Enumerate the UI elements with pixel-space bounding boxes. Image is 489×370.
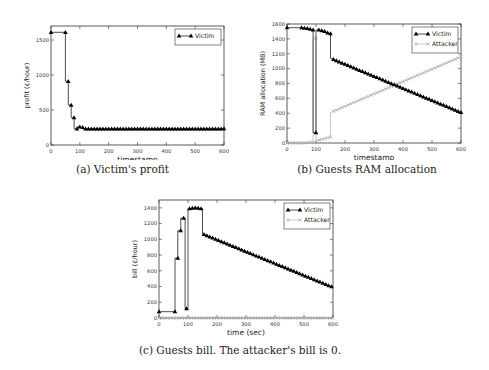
y-tick-label: 0 bbox=[154, 315, 157, 321]
y-tick-label: 1000 bbox=[144, 236, 157, 242]
x-tick-label: 200 bbox=[212, 321, 222, 327]
y-tick-label: 800 bbox=[275, 80, 285, 86]
x-tick-label: 100 bbox=[183, 321, 193, 327]
y-tick-label: 1400 bbox=[144, 205, 157, 211]
legend: Victim bbox=[175, 29, 221, 45]
x-tick-label: 0 bbox=[157, 321, 160, 327]
x-tick-label: 500 bbox=[427, 146, 437, 152]
y-tick-label: 1000 bbox=[272, 65, 285, 71]
x-tick-label: 200 bbox=[340, 146, 350, 152]
y-tick-label: 400 bbox=[275, 110, 285, 116]
x-tick-label: 500 bbox=[190, 148, 200, 154]
caption-b: (b) Guests RAM allocation bbox=[245, 163, 489, 175]
y-tick-label: 1600 bbox=[272, 21, 285, 27]
legend-entry-label: Attacker bbox=[432, 40, 458, 47]
x-tick-label: 300 bbox=[241, 321, 251, 327]
chart-b-plot: 0100200300400500600020040060080010001200… bbox=[245, 0, 489, 160]
legend-entry-label: Victim bbox=[195, 32, 214, 39]
x-tick-label: 400 bbox=[398, 146, 408, 152]
y-tick-label: 600 bbox=[147, 268, 157, 274]
y-tick-label: 1000 bbox=[36, 72, 49, 78]
y-axis-label: bill (¢/hour) bbox=[131, 240, 139, 278]
x-tick-label: 100 bbox=[75, 148, 85, 154]
y-tick-label: 0 bbox=[282, 140, 285, 146]
y-tick-label: 200 bbox=[275, 125, 285, 131]
chart-a: 0100200300400500600050010001500timestamp… bbox=[0, 0, 245, 180]
chart-b: 0100200300400500600020040060080010001200… bbox=[245, 0, 489, 180]
y-tick-label: 500 bbox=[39, 107, 49, 113]
y-tick-label: 0 bbox=[46, 142, 49, 148]
x-tick-label: 600 bbox=[456, 146, 466, 152]
caption-a: (a) Victim's profit bbox=[0, 163, 245, 175]
chart-c-plot: 0100200300400500600020040060080010001200… bbox=[110, 180, 370, 340]
legend-entry-label: Victim bbox=[432, 30, 451, 37]
x-tick-label: 600 bbox=[219, 148, 229, 154]
legend: VictimAttacker bbox=[412, 27, 458, 53]
legend: VictimAttacker bbox=[284, 203, 330, 229]
x-tick-label: 400 bbox=[161, 148, 171, 154]
legend-entry-label: Victim bbox=[304, 206, 323, 213]
x-tick-label: 400 bbox=[270, 321, 280, 327]
x-tick-label: 100 bbox=[311, 146, 321, 152]
x-tick-label: 500 bbox=[299, 321, 309, 327]
y-tick-label: 1200 bbox=[144, 220, 157, 226]
y-tick-label: 800 bbox=[147, 252, 157, 258]
x-tick-label: 300 bbox=[369, 146, 379, 152]
y-axis-label: RAM allocation (MB) bbox=[259, 51, 267, 116]
x-tick-label: 600 bbox=[328, 321, 338, 327]
x-axis-label: timestamp bbox=[354, 153, 395, 160]
y-tick-label: 1500 bbox=[36, 37, 49, 43]
x-tick-label: 0 bbox=[285, 146, 288, 152]
y-tick-label: 400 bbox=[147, 283, 157, 289]
x-axis-label: timestamp bbox=[117, 155, 158, 160]
legend-entry-label: Attacker bbox=[304, 216, 330, 223]
y-axis-label: profit (¢/hour) bbox=[23, 63, 31, 109]
y-tick-label: 200 bbox=[147, 299, 157, 305]
x-axis-label: time (sec) bbox=[227, 328, 265, 337]
x-tick-label: 0 bbox=[49, 148, 52, 154]
x-tick-label: 300 bbox=[133, 148, 143, 154]
y-tick-label: 1200 bbox=[272, 51, 285, 57]
y-tick-label: 1400 bbox=[272, 36, 285, 42]
x-tick-label: 200 bbox=[104, 148, 114, 154]
chart-c: 0100200300400500600020040060080010001200… bbox=[110, 180, 370, 370]
y-tick-label: 600 bbox=[275, 95, 285, 101]
caption-c: (c) Guests bill. The attacker's bill is … bbox=[110, 344, 370, 356]
chart-a-plot: 0100200300400500600050010001500timestamp… bbox=[0, 0, 245, 160]
